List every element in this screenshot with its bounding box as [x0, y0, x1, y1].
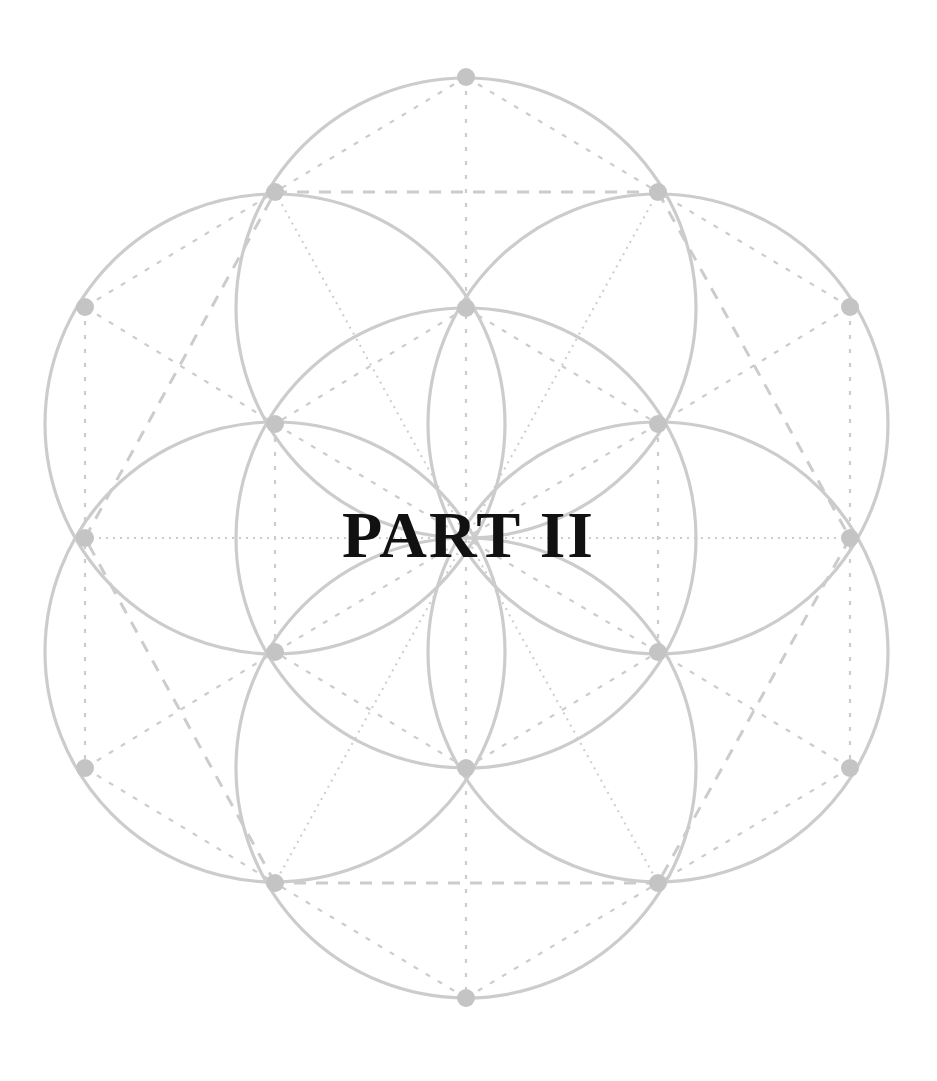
node [649, 643, 667, 661]
node [841, 298, 859, 316]
node [266, 183, 284, 201]
node [649, 874, 667, 892]
node [266, 415, 284, 433]
node [76, 759, 94, 777]
node [457, 989, 475, 1007]
node [457, 759, 475, 777]
node [457, 68, 475, 86]
part-title: PART II [0, 495, 937, 575]
node [76, 298, 94, 316]
node [266, 874, 284, 892]
node [649, 415, 667, 433]
node [841, 759, 859, 777]
node [266, 643, 284, 661]
node [457, 299, 475, 317]
node [649, 183, 667, 201]
